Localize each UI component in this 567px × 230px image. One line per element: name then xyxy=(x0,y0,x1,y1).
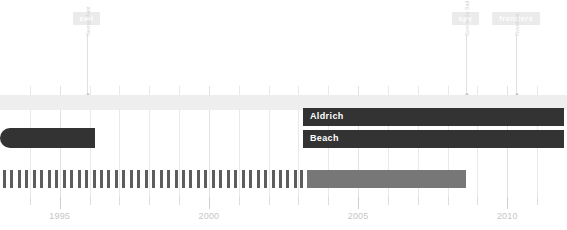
axis-label: 2000 xyxy=(198,211,219,221)
axis-tick xyxy=(119,197,120,205)
bar-early-span[interactable] xyxy=(0,128,95,148)
bar-beach[interactable] xyxy=(303,130,564,148)
marker-line xyxy=(87,34,88,95)
event-tick xyxy=(18,170,21,188)
event-tick xyxy=(107,170,110,188)
event-tick xyxy=(257,170,260,188)
axis-tick xyxy=(358,197,359,209)
axis-tick xyxy=(418,197,419,205)
bar-label: Aldrich xyxy=(310,111,344,121)
event-tick xyxy=(100,170,103,188)
event-tick xyxy=(300,170,303,188)
axis-tick xyxy=(388,197,389,205)
axis-tick xyxy=(298,197,299,205)
axis-tick xyxy=(179,197,180,205)
event-tick xyxy=(160,170,163,188)
axis-tick xyxy=(30,197,31,205)
event-tick xyxy=(25,170,28,188)
event-tick xyxy=(204,170,207,188)
axis-tick xyxy=(477,197,478,205)
axis-tick xyxy=(90,197,91,205)
event-tick xyxy=(152,170,155,188)
event-tick xyxy=(145,170,148,188)
event-tick xyxy=(242,170,245,188)
bar-mid-span[interactable] xyxy=(307,170,465,188)
event-tick xyxy=(70,170,73,188)
event-tick xyxy=(272,170,275,188)
event-tick xyxy=(63,170,66,188)
event-tick xyxy=(33,170,36,188)
axis-tick xyxy=(149,197,150,205)
bar-label: Beach xyxy=(310,133,339,143)
event-tick xyxy=(227,170,230,188)
event-tick xyxy=(10,170,13,188)
axis-tick xyxy=(239,197,240,205)
event-tick xyxy=(234,170,237,188)
event-tick xyxy=(93,170,96,188)
event-tick xyxy=(137,170,140,188)
marker-line xyxy=(466,34,467,95)
event-tick xyxy=(182,170,185,188)
event-tick xyxy=(115,170,118,188)
timeline-chart: emispyfrontiers Nextep PlantGovt to Be B… xyxy=(0,0,567,230)
axis-label: 1995 xyxy=(49,211,70,221)
event-tick xyxy=(249,170,252,188)
axis-tick xyxy=(537,197,538,205)
event-tick xyxy=(279,170,282,188)
event-tick xyxy=(264,170,267,188)
marker-label: Fivermost xyxy=(514,13,520,36)
event-tick xyxy=(40,170,43,188)
event-tick xyxy=(197,170,200,188)
axis-tick xyxy=(328,197,329,205)
event-tick xyxy=(85,170,88,188)
axis-label: 2005 xyxy=(348,211,369,221)
event-tick xyxy=(122,170,125,188)
axis-tick xyxy=(448,197,449,205)
event-tick xyxy=(3,170,6,188)
event-tick xyxy=(286,170,289,188)
axis-label: 2010 xyxy=(497,211,518,221)
marker-label: Govt to Be Bad xyxy=(464,1,470,36)
event-tick xyxy=(189,170,192,188)
event-tick xyxy=(212,170,215,188)
event-tick xyxy=(175,170,178,188)
event-tick xyxy=(167,170,170,188)
event-tick xyxy=(48,170,51,188)
axis-tick xyxy=(507,197,508,209)
marker-line xyxy=(516,34,517,95)
event-tick xyxy=(78,170,81,188)
axis-tick xyxy=(209,197,210,209)
axis-tick xyxy=(269,197,270,205)
marker-label: Nextep Plant xyxy=(85,6,91,36)
axis-tick xyxy=(60,197,61,209)
event-tick xyxy=(294,170,297,188)
event-tick xyxy=(130,170,133,188)
event-tick xyxy=(219,170,222,188)
event-tick xyxy=(55,170,58,188)
